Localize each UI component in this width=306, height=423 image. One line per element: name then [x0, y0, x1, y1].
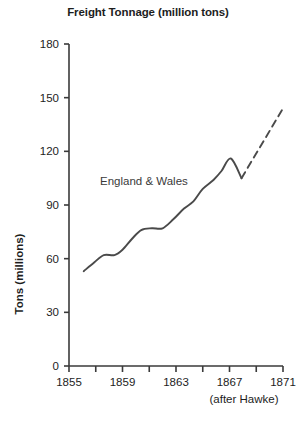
data-series-group: [84, 108, 283, 271]
x-tick-label: 1855: [56, 376, 82, 388]
x-tick-label: 1867: [217, 376, 243, 388]
y-tick-label: 90: [46, 199, 59, 211]
x-tick-label: 1871: [270, 376, 296, 388]
freight-tonnage-chart: Freight Tonnage (million tons) Tons (mil…: [0, 0, 306, 423]
x-tick-label: 1859: [110, 376, 136, 388]
x-tick-group: 18551859186318671871: [56, 366, 296, 388]
x-axis: 18551859186318671871: [56, 366, 296, 388]
y-tick-label: 60: [46, 253, 59, 265]
y-axis: 0306090120150180: [40, 38, 69, 372]
series-annotation-england-wales: England & Wales: [100, 175, 188, 187]
plot-area: 0306090120150180 18551859186318671871: [0, 0, 306, 423]
y-tick-label: 30: [46, 306, 59, 318]
y-tick-label: 150: [40, 92, 59, 104]
y-tick-label: 180: [40, 38, 59, 50]
source-note: (after Hawke): [196, 393, 292, 405]
y-tick-group: 0306090120150180: [40, 38, 69, 372]
y-tick-label: 120: [40, 145, 59, 157]
series-line-projected: [242, 108, 283, 178]
x-tick-label: 1863: [163, 376, 189, 388]
y-tick-label: 0: [53, 360, 59, 372]
